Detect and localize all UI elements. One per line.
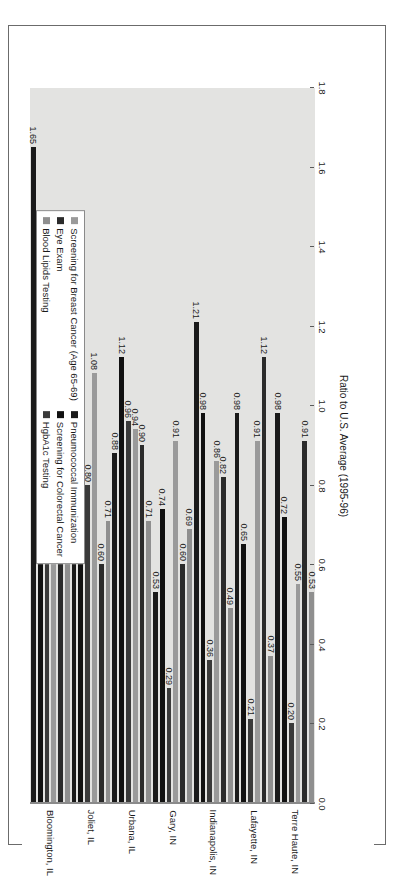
- bar-row: 0.49: [228, 88, 233, 803]
- bar-group: 0.980.650.210.911.120.37: [234, 88, 275, 803]
- bar: [207, 660, 212, 803]
- bar: [140, 445, 145, 803]
- bar-row: 0.91: [302, 88, 307, 803]
- axis-tick-label: 1.8: [317, 81, 328, 94]
- axis-tick-mark: [310, 723, 314, 724]
- axis-tick-mark: [310, 564, 314, 565]
- bar-row: 0.60: [99, 88, 104, 803]
- bar: [160, 509, 165, 803]
- bar-row: 0.37: [268, 88, 273, 803]
- bar-group: 0.980.720.200.550.910.53: [274, 88, 315, 803]
- bar: [51, 552, 56, 803]
- legend-item[interactable]: Blood Lipids Testing: [41, 217, 52, 401]
- category-label: Urbana, IL: [126, 810, 137, 854]
- bar: [268, 656, 273, 803]
- category-axis: Bloomington, ILJoliet, ILUrbana, ILGary,…: [30, 806, 315, 864]
- bar: [153, 592, 158, 803]
- bar: [241, 544, 246, 803]
- bar-row: 1.21: [194, 88, 199, 803]
- axis-tick-mark: [310, 485, 314, 486]
- category-label: Indianapolis, IN: [208, 810, 219, 875]
- bar-row: 0.21: [248, 88, 253, 803]
- axis-tick-label: 1.2: [317, 320, 328, 333]
- bar-row: 0.55: [296, 88, 301, 803]
- legend-swatch-icon: [71, 217, 78, 224]
- figure-frame: Bloomington, ILJoliet, ILUrbana, ILGary,…: [8, 25, 386, 845]
- bar-row: 0.29: [167, 88, 172, 803]
- bar: [248, 719, 253, 803]
- axis-tick-mark: [310, 87, 314, 88]
- bar: [173, 441, 178, 803]
- bar: [126, 421, 131, 803]
- bar-row: 0.98: [275, 88, 280, 803]
- legend-item[interactable]: Screening for Breast Cancer (Age 65-69): [69, 217, 80, 401]
- bar-row: 0.69: [187, 88, 192, 803]
- bar-row: 0.60: [180, 88, 185, 803]
- bar-row: 0.91: [255, 88, 260, 803]
- bar: [214, 461, 219, 803]
- bar-row: 0.88: [112, 88, 117, 803]
- bar: [85, 485, 90, 803]
- bar-row: 0.74: [160, 88, 165, 803]
- axis-tick-label: 0.2: [317, 718, 328, 731]
- bar-row: 0.82: [221, 88, 226, 803]
- bar-row: 1.12: [119, 88, 124, 803]
- legend-label: HgbA1c Testing: [41, 422, 52, 488]
- bar: [167, 688, 172, 803]
- legend-swatch-icon: [43, 411, 50, 418]
- bar-group: 1.210.980.360.860.820.49: [193, 88, 234, 803]
- chart-legend: Pneumococcal ImmunizationScreening for C…: [36, 210, 85, 564]
- axis-tick-mark: [310, 167, 314, 168]
- bar-row: 0.20: [289, 88, 294, 803]
- legend-label: Pneumococcal Immunization: [69, 422, 80, 543]
- axis-tick-label: 1.6: [317, 161, 328, 174]
- bar: [289, 723, 294, 803]
- axis-tick-mark: [310, 405, 314, 406]
- legend-item[interactable]: HgbA1c Testing: [41, 411, 52, 557]
- bar: [99, 564, 104, 803]
- bar: [255, 441, 260, 803]
- bar: [106, 521, 111, 803]
- axis-tick-mark: [310, 246, 314, 247]
- bar: [133, 429, 138, 803]
- legend-swatch-icon: [71, 411, 78, 418]
- bar-row: 0.80: [85, 88, 90, 803]
- legend-item[interactable]: Eye Exam: [55, 217, 66, 401]
- bar-row: 1.08: [92, 88, 97, 803]
- bar: [228, 608, 233, 803]
- category-label: Gary, IN: [167, 810, 178, 845]
- bar-row: 0.53: [309, 88, 314, 803]
- bar-row: 0.94: [133, 88, 138, 803]
- axis-tick-label: 0.8: [317, 479, 328, 492]
- bar: [187, 529, 192, 803]
- bar-row: 0.65: [241, 88, 246, 803]
- bar-row: 0.86: [214, 88, 219, 803]
- bar-row: 1.12: [262, 88, 267, 803]
- category-label: Bloomington, IL: [45, 810, 56, 876]
- bar: [112, 453, 117, 803]
- bar: [282, 517, 287, 803]
- bar-row: 0.53: [153, 88, 158, 803]
- legend-swatch-icon: [57, 411, 64, 418]
- category-label: Lafayette, IN: [248, 810, 259, 864]
- legend-label: Screening for Colorectal Cancer: [55, 422, 66, 557]
- bar-row: 0.72: [282, 88, 287, 803]
- legend-label: Screening for Breast Cancer (Age 65-69): [69, 228, 80, 401]
- bar-row: 0.98: [235, 88, 240, 803]
- bar-row: 0.91: [173, 88, 178, 803]
- bar: [235, 413, 240, 803]
- bar-row: 0.71: [146, 88, 151, 803]
- bar: [275, 413, 280, 803]
- axis-tick-mark: [310, 803, 314, 804]
- legend-item[interactable]: Screening for Colorectal Cancer: [55, 411, 66, 557]
- axis-tick-label: 0.0: [317, 797, 328, 810]
- category-label: Joliet, IL: [86, 810, 97, 845]
- axis-tick-mark: [310, 644, 314, 645]
- legend-swatch-icon: [57, 217, 64, 224]
- axis-tick-label: 1.4: [317, 241, 328, 254]
- bar: [221, 477, 226, 803]
- bar-row: 0.90: [140, 88, 145, 803]
- legend-column: Screening for Breast Cancer (Age 65-69)E…: [41, 217, 80, 401]
- legend-item[interactable]: Pneumococcal Immunization: [69, 411, 80, 557]
- bar: [119, 358, 124, 804]
